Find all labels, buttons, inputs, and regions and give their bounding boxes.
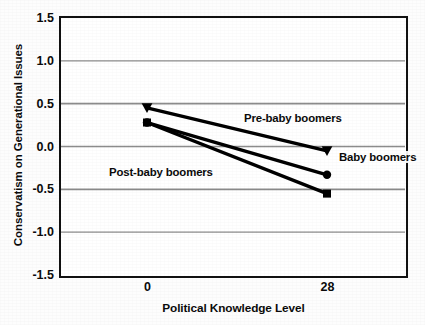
x-axis-tick-labels: 028 bbox=[0, 281, 425, 301]
series-line bbox=[147, 123, 327, 194]
y-tick-label: 0.5 bbox=[8, 98, 54, 111]
x-tick-label: 28 bbox=[321, 281, 335, 294]
y-tick-label: -0.5 bbox=[8, 183, 54, 196]
series-label-pre-baby-boomers: Pre-baby boomers bbox=[243, 112, 343, 124]
data-point-marker-square bbox=[323, 190, 331, 198]
y-tick-label: -1.0 bbox=[8, 226, 54, 239]
plot-area bbox=[59, 16, 408, 278]
x-tick-label: 0 bbox=[144, 281, 151, 294]
x-axis-title: Political Knowledge Level bbox=[59, 301, 408, 315]
y-axis-tick-labels: 1.51.00.50.0-0.5-1.0-1.5 bbox=[0, 0, 54, 325]
series-label-post-baby-boomers: Post-baby boomers bbox=[108, 166, 214, 178]
y-tick-label: 1.0 bbox=[8, 55, 54, 68]
plot-canvas bbox=[61, 18, 405, 275]
y-tick-label: 1.5 bbox=[8, 12, 54, 25]
y-tick-label: 0.0 bbox=[8, 141, 54, 154]
series-label-baby-boomers: Baby boomers bbox=[338, 151, 417, 163]
chart-figure: Conservatism on Generational Issues 1.51… bbox=[0, 0, 425, 325]
y-tick-label: -1.5 bbox=[8, 269, 54, 282]
data-point-marker-circle bbox=[323, 171, 331, 179]
data-point-marker-square bbox=[143, 119, 151, 127]
